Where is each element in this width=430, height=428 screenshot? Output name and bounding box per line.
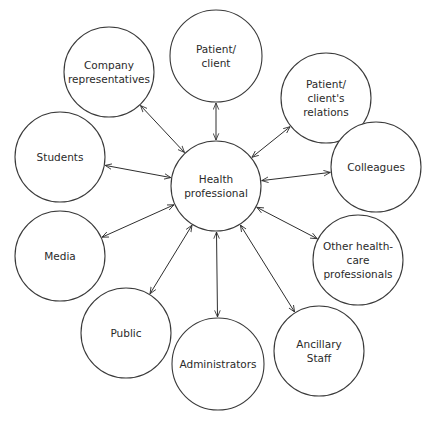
label-line: Public: [110, 326, 141, 340]
node-administrators-label: Administrators: [179, 357, 256, 371]
label-line: Colleagues: [347, 160, 405, 174]
double-arrow-public: [150, 225, 192, 294]
node-colleagues-label: Colleagues: [347, 160, 405, 174]
hub-health-professional-label: Healthprofessional: [184, 172, 248, 200]
label-line: Media: [44, 249, 76, 263]
label-line: Company: [68, 58, 150, 72]
node-students-label: Students: [37, 150, 84, 164]
label-line: client: [196, 56, 236, 70]
node-patient-clients-relations-label: Patient/client'srelations: [303, 77, 348, 119]
double-arrow-patient-clients-relations: [252, 127, 290, 158]
label-line: professional: [184, 186, 248, 200]
label-line: Health: [184, 172, 248, 186]
label-line: Patient/: [196, 42, 236, 56]
label-line: client's: [303, 91, 348, 105]
label-line: Students: [37, 150, 84, 164]
label-line: representatives: [68, 72, 150, 86]
label-line: relations: [303, 105, 348, 119]
double-arrow-students: [105, 165, 171, 177]
node-media-label: Media: [44, 249, 76, 263]
label-line: Staff: [296, 351, 341, 365]
double-arrow-media: [102, 205, 174, 237]
node-company-representatives-label: Companyrepresentatives: [68, 58, 150, 86]
node-patient-client-label: Patient/client: [196, 42, 236, 70]
label-line: care: [323, 253, 393, 267]
double-arrow-administrators: [217, 232, 218, 317]
label-line: Administrators: [179, 357, 256, 371]
double-arrow-ancillary-staff: [240, 225, 294, 312]
double-arrow-colleagues: [262, 172, 331, 180]
label-line: Ancillary: [296, 337, 341, 351]
node-public-label: Public: [110, 326, 141, 340]
node-ancillary-staff-label: AncillaryStaff: [296, 337, 341, 365]
double-arrow-company-representatives: [141, 106, 185, 153]
label-line: Patient/: [303, 77, 348, 91]
node-other-health-care-professionals-label: Other health-careprofessionals: [323, 239, 393, 281]
double-arrow-other-health-care-professionals: [257, 207, 317, 238]
label-line: professionals: [323, 267, 393, 281]
label-line: Other health-: [323, 239, 393, 253]
